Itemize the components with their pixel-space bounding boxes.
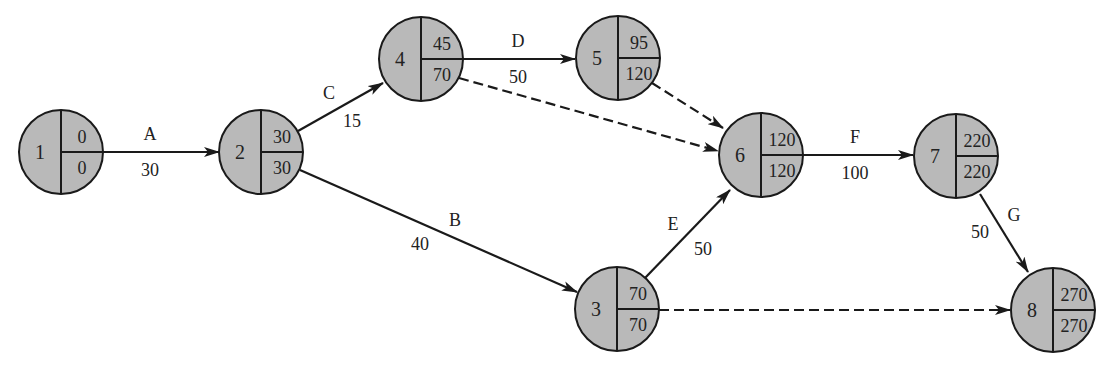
- event-node-6: 6120120: [719, 113, 803, 197]
- event-node-4: 44570: [379, 17, 463, 101]
- activity-edge-f: F100: [803, 127, 913, 183]
- activity-name: A: [144, 124, 157, 144]
- activity-edge-d: D50: [463, 31, 575, 87]
- node-number: 8: [1027, 299, 1037, 321]
- event-node-2: 23030: [219, 110, 303, 194]
- nodes-layer: 1002303037070445705951206120120722022082…: [19, 16, 1095, 352]
- earliest-time: 0: [78, 127, 87, 147]
- event-node-3: 37070: [575, 267, 659, 351]
- dummy-activity-edge: [652, 83, 723, 128]
- activity-duration: 50: [971, 222, 989, 242]
- activity-name: B: [449, 210, 461, 230]
- activity-edge-g: G50: [971, 194, 1028, 272]
- latest-time: 120: [626, 64, 653, 84]
- activity-duration: 100: [842, 163, 869, 183]
- earliest-time: 95: [630, 33, 648, 53]
- earliest-time: 220: [964, 131, 991, 151]
- event-node-5: 595120: [576, 16, 660, 100]
- earliest-time: 45: [433, 34, 451, 54]
- activity-name: G: [1008, 205, 1021, 225]
- latest-time: 220: [964, 162, 991, 182]
- latest-time: 70: [629, 315, 647, 335]
- earliest-time: 70: [629, 284, 647, 304]
- cpm-network-diagram: A30C15B40D50E50F100G50 10023030370704457…: [0, 0, 1113, 376]
- activity-edge-a: A30: [103, 124, 219, 180]
- node-number: 6: [735, 144, 745, 166]
- node-number: 4: [395, 48, 405, 70]
- activity-duration: 30: [141, 160, 159, 180]
- earliest-time: 120: [769, 130, 796, 150]
- network-canvas: A30C15B40D50E50F100G50 10023030370704457…: [0, 0, 1113, 376]
- activity-edge-e: E50: [645, 190, 730, 278]
- arrow-icon: [298, 83, 383, 131]
- earliest-time: 270: [1061, 285, 1088, 305]
- arrow-icon: [300, 170, 577, 292]
- node-number: 3: [591, 298, 601, 320]
- activity-name: D: [512, 31, 525, 51]
- activity-edge-b: B40: [300, 170, 577, 292]
- event-node-1: 100: [19, 110, 103, 194]
- latest-time: 0: [78, 158, 87, 178]
- earliest-time: 30: [273, 127, 291, 147]
- activity-name: F: [850, 127, 860, 147]
- event-node-7: 7220220: [914, 114, 998, 198]
- activity-name: C: [323, 83, 335, 103]
- node-number: 7: [930, 145, 940, 167]
- arrow-icon: [645, 190, 730, 278]
- dashed-arrow-icon: [652, 83, 723, 128]
- node-number: 2: [235, 141, 245, 163]
- event-node-8: 8270270: [1011, 268, 1095, 352]
- activity-duration: 40: [411, 234, 429, 254]
- activity-duration: 15: [343, 111, 361, 131]
- node-number: 1: [35, 141, 45, 163]
- activity-name: E: [668, 214, 679, 234]
- latest-time: 30: [273, 158, 291, 178]
- activity-duration: 50: [509, 67, 527, 87]
- activity-duration: 50: [694, 239, 712, 259]
- node-number: 5: [592, 47, 602, 69]
- latest-time: 70: [433, 65, 451, 85]
- activity-edge-c: C15: [298, 83, 383, 131]
- latest-time: 120: [769, 161, 796, 181]
- latest-time: 270: [1061, 316, 1088, 336]
